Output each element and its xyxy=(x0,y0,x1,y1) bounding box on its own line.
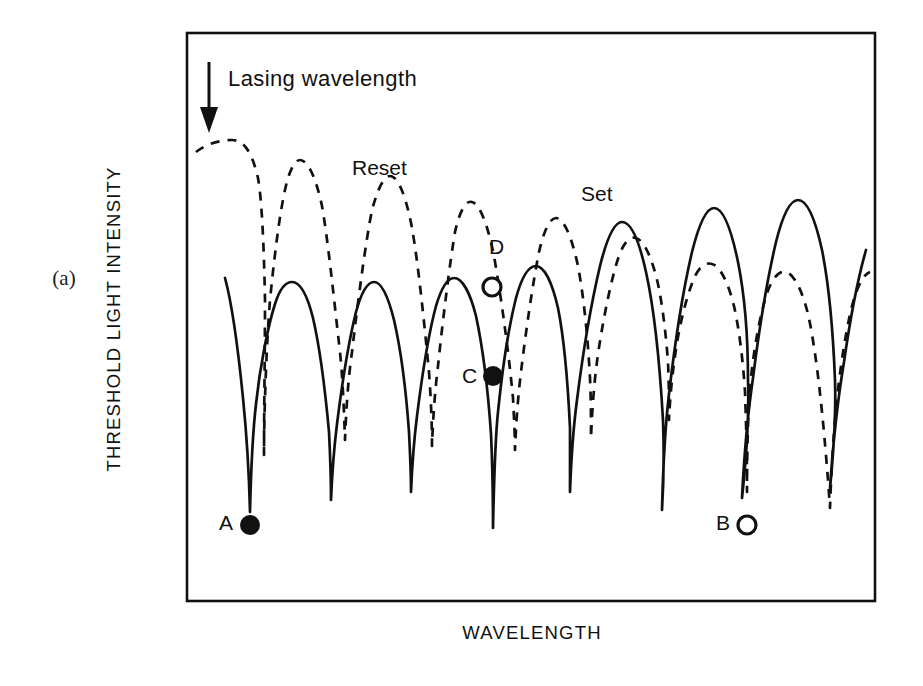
point-a-label: A xyxy=(219,512,233,533)
point-d-label: D xyxy=(489,236,504,257)
marker-point-d xyxy=(483,278,501,296)
marker-point-c xyxy=(484,367,502,385)
reset-curve-label: Reset xyxy=(352,157,407,178)
point-b-label: B xyxy=(716,512,730,533)
plot-area xyxy=(0,0,923,686)
lasing-wavelength-label: Lasing wavelength xyxy=(228,68,417,90)
plot-frame xyxy=(187,33,875,601)
point-c-label: C xyxy=(462,365,477,386)
figure-root: (a) THRESHOLD LIGHT INTENSITY WAVELENGTH… xyxy=(0,0,923,686)
marker-point-a xyxy=(241,516,259,534)
marker-point-b xyxy=(738,516,756,534)
set-curve-label: Set xyxy=(581,183,613,204)
